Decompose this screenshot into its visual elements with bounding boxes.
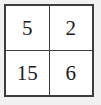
page-canvas: 5 2 15 6 — [0, 0, 101, 105]
table-cell-r1c0: 15 — [5, 51, 49, 97]
number-grid-table: 5 2 15 6 — [4, 4, 94, 97]
cell-value: 6 — [50, 63, 93, 84]
table-row: 5 2 — [5, 5, 93, 51]
table-row: 15 6 — [5, 51, 93, 97]
cell-value: 5 — [6, 18, 49, 39]
cell-value: 15 — [6, 63, 49, 84]
table-cell-r0c1: 2 — [49, 5, 93, 51]
table-body: 5 2 15 6 — [5, 5, 93, 96]
table-cell-r1c1: 6 — [49, 51, 93, 97]
cell-value: 2 — [50, 18, 93, 39]
table-cell-r0c0: 5 — [5, 5, 49, 51]
